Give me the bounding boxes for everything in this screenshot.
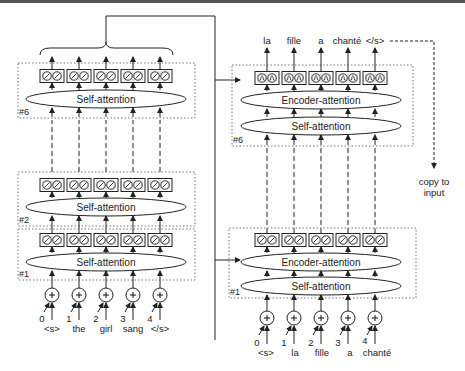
encoder-pos-1: 1 <box>66 313 71 324</box>
decoder-pos-2: 2 <box>308 337 313 348</box>
decoder-6-encoder-attention-label: Encoder-attention <box>282 95 361 106</box>
decoder-output-4: </s> <box>366 35 385 46</box>
decoder-output-1: fille <box>287 35 301 46</box>
encoder-token-2: girl <box>100 323 113 334</box>
encoder-token-0: <s> <box>44 323 60 334</box>
encoder-2-attention-label: Self-attention <box>77 202 136 213</box>
decoder-input-2: fille <box>315 347 329 358</box>
decoder-layer-1: Encoder-attention Self-attention #1 <box>229 228 416 298</box>
decoder-6-self-attention-label: Self-attention <box>292 121 351 132</box>
decoder-input-3: a <box>347 347 353 358</box>
decoder-output-3: chanté <box>333 35 362 46</box>
decoder-pos-1: 1 <box>281 337 286 348</box>
transformer-diagram: Self-attention #6 Self-attention #2 Self… <box>0 0 465 371</box>
encoder-output-brace <box>40 42 173 55</box>
copy-to-input-arrow <box>390 41 434 168</box>
decoder-output-2: a <box>318 35 324 46</box>
decoder-6-id: #6 <box>233 135 243 145</box>
encoder-2-id: #2 <box>19 215 29 225</box>
decoder-pos-4: 4 <box>362 335 367 346</box>
copy-to-label-line2: input <box>424 187 445 198</box>
decoder-input-tokens: <s> la fille a chanté <box>258 347 391 358</box>
encoder-token-3: sang <box>123 323 144 334</box>
decoder-output-tokens: la fille a chanté </s> <box>263 35 384 46</box>
encoder-token-1: the <box>72 323 85 334</box>
decoder-input-1: la <box>291 347 299 358</box>
encoder-token-4: </s> <box>151 323 170 334</box>
encoder-pos-2: 2 <box>93 313 98 324</box>
encoder-1-id: #1 <box>19 269 29 279</box>
encoder-tokens: <s> the girl sang </s> <box>44 323 170 334</box>
decoder-pos-3: 3 <box>335 337 340 348</box>
copy-to-label-line1: copy to <box>419 176 450 187</box>
encoder-1-attention-label: Self-attention <box>77 257 136 268</box>
encoder-6-ffn-row <box>40 70 172 83</box>
decoder-1-encoder-attention-label: Encoder-attention <box>282 257 361 268</box>
encoder-6-id: #6 <box>19 107 29 117</box>
decoder-1-id: #1 <box>230 287 240 297</box>
decoder-output-0: la <box>263 35 271 46</box>
decoder-1-self-attention-label: Self-attention <box>292 281 351 292</box>
decoder-layer-6: Encoder-attention Self-attention #6 <box>232 65 413 146</box>
decoder-input-4: chanté <box>363 347 392 358</box>
encoder-6-attention-label: Self-attention <box>77 94 136 105</box>
decoder-input-0: <s> <box>258 347 274 358</box>
